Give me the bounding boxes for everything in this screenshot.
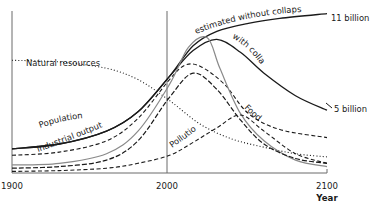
axes: [12, 11, 327, 173]
label-5-billion: 5 billion: [334, 104, 367, 114]
label-without-collapse-text: estimated without collapse: [0, 0, 302, 36]
series-estimated-without-collapse: [12, 14, 327, 149]
series-industrial-output: [12, 37, 327, 167]
label-natural-resources: Natural resources: [26, 58, 100, 68]
x-tick-label: 1900: [1, 181, 23, 191]
label-food: Food: [243, 102, 264, 123]
leader-5-billion: [326, 103, 332, 108]
annotations: Natural resources Population Industrial …: [0, 0, 369, 154]
x-tick-label: 2100: [316, 181, 338, 191]
world-model-chart: 1900 2000 2100 Year Natural resources Po…: [0, 0, 378, 204]
label-11-billion: 11 billion: [331, 13, 369, 23]
label-with-collapse-text: with collapse: [0, 0, 268, 66]
x-axis-label: Year: [315, 193, 338, 203]
label-population-text: Population: [37, 110, 83, 130]
series-with-collapse: [12, 39, 327, 148]
label-with-collapse: with collapse: [0, 0, 268, 66]
x-tick-label: 2000: [156, 181, 178, 191]
label-population: Population: [37, 110, 83, 130]
label-food-text: Food: [243, 102, 264, 123]
tick-labels: 1900 2000 2100 Year: [1, 181, 338, 203]
label-without-collapse: estimated without collapse: [0, 0, 302, 36]
